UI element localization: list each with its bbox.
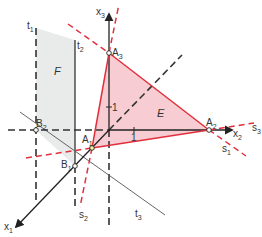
label-s3: s3	[252, 122, 261, 135]
label-s2: s2	[79, 209, 88, 222]
label-t3: t3	[135, 208, 142, 221]
line-s2-dashed-top	[109, 4, 119, 53]
label-x3: x3	[96, 6, 105, 19]
tick-label-x3: 1	[112, 102, 118, 113]
label-x2: x2	[233, 128, 242, 141]
label-t2: t2	[77, 40, 84, 53]
label-a1: A1	[82, 134, 93, 147]
point-a3	[107, 51, 112, 56]
tick-label-x2: 1	[131, 132, 137, 143]
coordinate-diagram: x3 x2 x1 A3 A2 A1 B1 B2 s1 s2 s3 t1 t2 t…	[0, 0, 262, 237]
region-f	[36, 28, 75, 166]
label-x1: x1	[4, 221, 13, 234]
point-a2	[207, 128, 212, 133]
label-t1: t1	[27, 20, 34, 33]
line-s2-dashed-bottom	[80, 148, 92, 207]
label-region-e: E	[157, 107, 165, 119]
point-b1	[73, 164, 78, 169]
